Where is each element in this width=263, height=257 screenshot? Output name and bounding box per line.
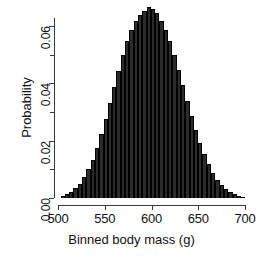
x-axis-tick-label: 700 (225, 211, 263, 226)
x-axis-tick (198, 205, 199, 210)
x-axis-tick (58, 205, 59, 210)
x-axis-tick-label: 500 (38, 211, 78, 226)
x-axis-tick-label: 650 (178, 211, 218, 226)
y-axis-minor-tick (50, 169, 54, 170)
x-axis-tick-label: 600 (132, 211, 172, 226)
plot-area (57, 8, 245, 198)
y-axis-line (54, 18, 55, 198)
y-axis-title: Probability (19, 18, 34, 198)
y-axis-tick-label-wrap: 0.04 (2, 76, 46, 90)
y-axis-tick-label-wrap: 0.06 (2, 19, 46, 33)
histogram-bars (57, 8, 245, 198)
histogram-bar (241, 197, 245, 198)
y-axis-title-wrap: Probability (8, 10, 26, 200)
y-axis-tick-label-wrap: 0.00 (2, 191, 46, 205)
y-axis-minor-tick (50, 55, 54, 56)
y-axis-tick-label: 0.06 (39, 26, 53, 70)
y-axis-minor-tick (50, 112, 54, 113)
x-axis-tick (152, 205, 153, 210)
x-axis-title: Binned body mass (g) (0, 232, 263, 247)
histogram-figure: Probability 0.000.020.040.06 50055060065… (0, 0, 263, 257)
x-axis-tick-label: 550 (85, 211, 125, 226)
y-axis-tick-label: 0.04 (39, 83, 53, 127)
y-axis-tick-label: 0.02 (39, 141, 53, 185)
y-axis-tick-label-wrap: 0.02 (2, 134, 46, 148)
x-axis-tick (245, 205, 246, 210)
x-axis-tick (105, 205, 106, 210)
